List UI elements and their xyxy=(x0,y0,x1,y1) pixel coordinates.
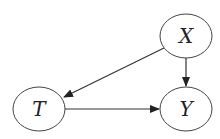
edge-x-to-t xyxy=(64,48,164,97)
causal-diagram: X T Y xyxy=(0,0,220,139)
node-y: Y xyxy=(160,87,212,131)
node-t-label: T xyxy=(32,97,47,121)
node-t: T xyxy=(13,87,65,131)
node-y-label: Y xyxy=(179,97,194,121)
node-x: X xyxy=(160,14,212,58)
node-x-label: X xyxy=(177,24,194,48)
